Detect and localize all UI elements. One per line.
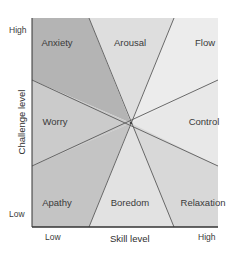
x-axis-low-label: Low [45,232,61,242]
region-label-flow: Flow [195,37,215,48]
y-axis-low-label: Low [9,209,25,219]
x-axis-title: Skill level [110,233,150,244]
y-axis-title: Challenge level [16,90,27,155]
region-label-control: Control [189,116,220,127]
region-label-worry: Worry [42,116,67,127]
region-label-boredom: Boredom [111,197,150,208]
region-label-arousal: Arousal [114,37,146,48]
region-label-anxiety: Anxiety [41,37,72,48]
region-label-relaxation: Relaxation [181,197,226,208]
region-label-apathy: Apathy [42,197,72,208]
y-axis-high-label: High [9,25,26,35]
x-axis-high-label: High [198,232,215,242]
center-point [130,122,133,125]
